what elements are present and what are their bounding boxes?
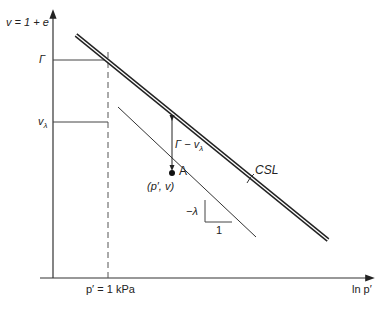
- point-a-label: A: [179, 165, 187, 177]
- slope-run-label: 1: [216, 225, 222, 236]
- y-axis-label: v = 1 + e: [6, 17, 49, 28]
- csl-label: CSL: [255, 164, 278, 176]
- point-a: [169, 170, 175, 176]
- gap-label-sub: λ: [199, 144, 203, 153]
- v-lambda-sub: λ: [44, 121, 48, 130]
- point-coords-label: (p′, v): [147, 181, 174, 192]
- gap-label-main: Γ − v: [175, 138, 199, 150]
- gamma-label: Γ: [39, 54, 45, 65]
- x-reference-label: p′ = 1 kPa: [86, 284, 135, 295]
- gap-label: Γ − vλ: [175, 139, 203, 153]
- x-axis-label: ln p′: [352, 284, 372, 295]
- v-lambda-label: vλ: [38, 116, 47, 130]
- diagram-canvas: [0, 0, 391, 309]
- csl-line: [76, 35, 328, 240]
- slope-label: −λ: [186, 206, 198, 217]
